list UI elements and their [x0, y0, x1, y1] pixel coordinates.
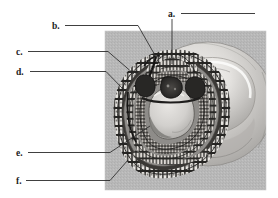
label-e-text: e.: [16, 148, 23, 158]
label-b-text: b.: [52, 21, 60, 31]
embryo-cross-section: [118, 54, 227, 175]
label-d-text: d.: [16, 67, 24, 77]
label-f-text: f.: [16, 176, 22, 186]
diagram-canvas: a. b. c. d. e. f.: [0, 0, 278, 198]
micrograph-panel: [105, 31, 274, 190]
notochord-mass: [161, 77, 183, 98]
labeled-diagram-figure: a. b. c. d. e. f.: [0, 0, 278, 198]
label-a-text: a.: [168, 9, 175, 19]
label-c-text: c.: [16, 47, 23, 57]
